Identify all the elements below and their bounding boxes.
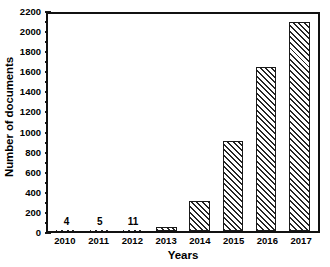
y-tick-label: 800	[25, 148, 41, 158]
y-tick-label: 1200	[20, 108, 41, 118]
plot-area: 4511	[46, 12, 320, 233]
x-tick-label: 2016	[251, 235, 285, 246]
x-tick-label: 2014	[183, 235, 217, 246]
y-tick-label: 200	[25, 208, 41, 218]
x-tick-label: 2017	[284, 235, 318, 246]
x-axis-tick-labels: 20102011201220132014201520162017	[46, 235, 320, 246]
bar-slot	[250, 14, 283, 231]
bar-value-label: 5	[97, 217, 103, 227]
x-tick-label: 2011	[82, 235, 116, 246]
bar-slot	[216, 14, 249, 231]
x-tick-label: 2015	[217, 235, 251, 246]
bar	[123, 230, 144, 231]
bar	[90, 230, 111, 231]
bar-slot	[283, 14, 316, 231]
bar-value-label: 4	[64, 217, 70, 227]
bar-slot: 4	[50, 14, 83, 231]
bar-chart-figure: Number of documents 02004006008001000120…	[0, 0, 330, 267]
bar	[223, 141, 244, 231]
y-tick-label: 600	[25, 168, 41, 178]
y-tick-label: 2000	[20, 27, 41, 37]
bar	[289, 22, 310, 231]
bar	[256, 67, 277, 231]
x-tick-label: 2012	[116, 235, 150, 246]
bar-slot	[183, 14, 216, 231]
bar	[156, 227, 177, 231]
bar-series: 4511	[48, 14, 318, 231]
x-axis-title: Years	[46, 249, 320, 261]
y-tick-label: 1600	[20, 68, 41, 78]
y-tick-label: 2200	[20, 7, 41, 17]
x-tick-label: 2010	[48, 235, 82, 246]
bar-value-label: 11	[128, 217, 139, 227]
y-tick-label: 1000	[20, 128, 41, 138]
y-tick-label: 0	[36, 228, 41, 238]
y-tick-label: 400	[25, 188, 41, 198]
bar-slot: 11	[117, 14, 150, 231]
bar	[189, 201, 210, 231]
y-axis-tick-labels: 0200400600800100012001400160018002000220…	[16, 0, 43, 240]
bar-slot	[150, 14, 183, 231]
y-tick-label: 1400	[20, 88, 41, 98]
x-tick-label: 2013	[149, 235, 183, 246]
bar	[56, 230, 77, 231]
y-tick-label: 1800	[20, 47, 41, 57]
y-axis-title-text: Number of documents	[3, 56, 15, 176]
bar-slot: 5	[83, 14, 116, 231]
